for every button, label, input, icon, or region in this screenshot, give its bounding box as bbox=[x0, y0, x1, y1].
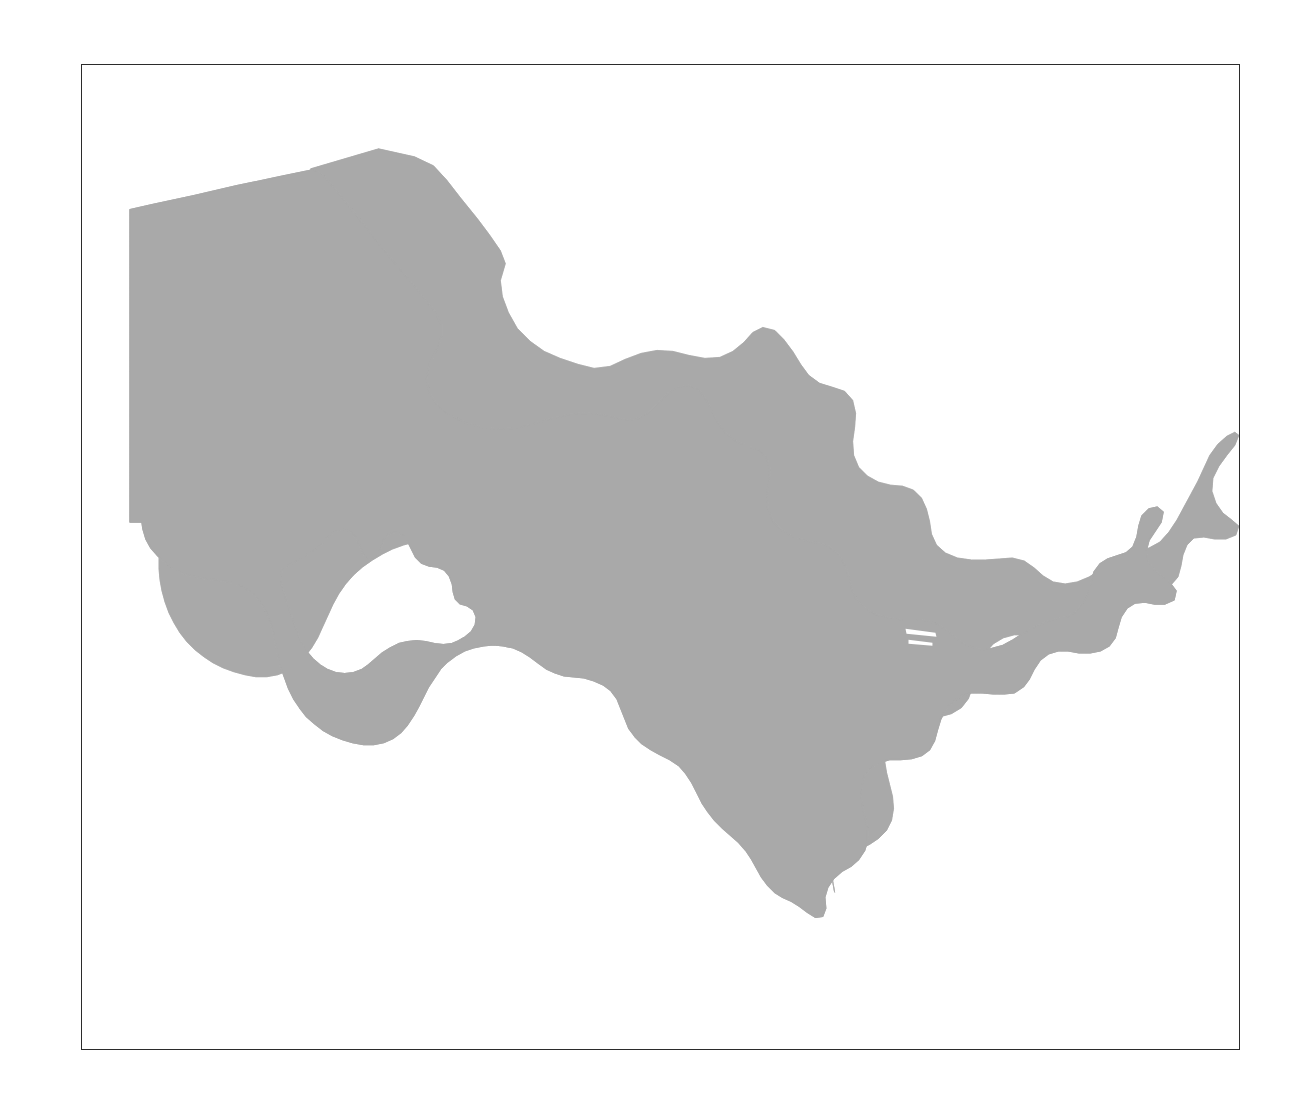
map-figure: Uzbekistan bbox=[0, 0, 1309, 1110]
plot-frame bbox=[81, 64, 1240, 1050]
uzbekistan-map-svg[interactable] bbox=[82, 65, 1239, 1049]
